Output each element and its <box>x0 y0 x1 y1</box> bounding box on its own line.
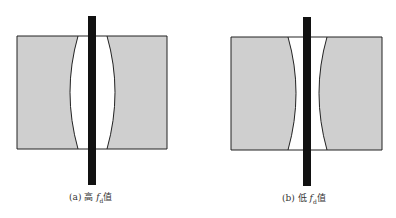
panel-a <box>17 16 167 185</box>
diagram-canvas <box>0 0 396 218</box>
panel-a-caption-prefix: (a) 高 <box>69 192 93 202</box>
panel-b-center-bar <box>303 17 311 186</box>
panel-a-caption-suffix: 值 <box>103 192 112 202</box>
panel-b-caption-suffix: 值 <box>317 193 326 203</box>
panel-a-left-block <box>17 36 78 149</box>
panel-b-caption-prefix: (b) 低 <box>282 193 307 203</box>
panel-a-caption: (a) 高 fd值 <box>69 190 112 204</box>
panel-b-caption: (b) 低 fd值 <box>282 191 326 205</box>
panel-b <box>231 17 382 186</box>
panel-a-center-bar <box>88 16 96 185</box>
panel-b-left-block <box>231 37 296 150</box>
panel-b-right-block <box>319 37 382 150</box>
panel-a-right-block <box>107 36 167 149</box>
